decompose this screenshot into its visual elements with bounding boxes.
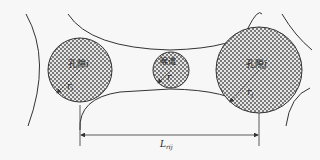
pore-j-radius-label: rj <box>247 88 253 98</box>
throat-radius-label: r <box>167 73 171 82</box>
grain-boundary-bottom <box>80 89 248 130</box>
pore-i-radius-label: ri <box>67 82 73 92</box>
pore-j-label: 孔隙j <box>246 60 267 69</box>
grain-boundary-left <box>26 14 40 126</box>
diagram-canvas <box>0 0 320 160</box>
throat-label: 喉道 <box>160 58 176 66</box>
pore-i-label: 孔隙i <box>68 60 89 69</box>
distance-label: Lrij <box>160 140 173 150</box>
pore-throat-diagram: 孔隙i ri 喉道 r 孔隙j rj Lrij <box>0 0 320 160</box>
